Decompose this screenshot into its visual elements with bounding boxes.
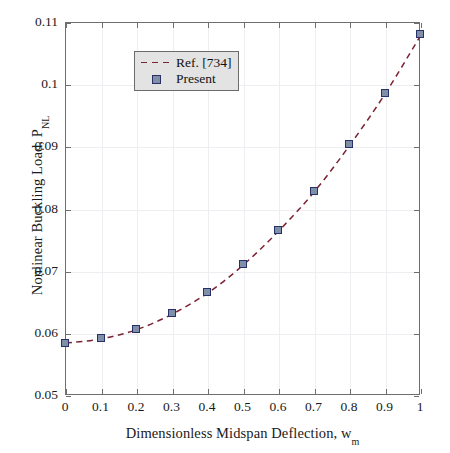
reference-curve [66,23,421,396]
x-axis-tick-label: 1 [400,400,440,414]
data-point-marker [168,309,176,317]
data-point-marker [239,260,247,268]
x-axis-tick-label: 0.2 [116,400,156,414]
y-axis-tick-label: 0.09 [14,139,58,153]
x-axis-tick [421,23,422,28]
x-axis-tick-label: 0.8 [329,400,369,414]
x-axis-tick-label: 0 [45,400,85,414]
data-point-marker [203,288,211,296]
dashed-line-icon [140,56,174,70]
data-point-marker [61,339,69,347]
legend: Ref. [734] Present [134,51,239,91]
data-point-marker [274,226,282,234]
x-axis-tick [421,389,422,394]
square-marker-icon [140,72,174,86]
y-axis-title-subscript: NL [39,116,50,129]
legend-label-ref: Ref. [734] [174,55,231,71]
legend-label-present: Present [174,71,216,87]
x-axis-tick-label: 0.6 [258,400,298,414]
data-point-marker [97,334,105,342]
x-axis-title: Dimensionless Midspan Deflection, wm [60,425,425,444]
y-axis-tick-label: 0.07 [14,264,58,278]
plot-area: Ref. [734] Present [65,22,420,395]
x-axis-title-subscript: m [352,436,360,447]
y-axis-tick-label: 0.06 [14,326,58,340]
data-point-marker [381,89,389,97]
y-axis-tick [66,396,71,397]
legend-item-ref: Ref. [734] [140,55,231,71]
x-axis-tick-label: 0.7 [294,400,334,414]
x-axis-tick-label: 0.5 [223,400,263,414]
data-point-marker [416,30,424,38]
data-point-marker [132,325,140,333]
x-axis-tick-label: 0.9 [365,400,405,414]
x-axis-tick-label: 0.3 [152,400,192,414]
x-axis-tick-label: 0.4 [187,400,227,414]
x-axis-tick-label: 0.1 [81,400,121,414]
x-axis-title-text: Dimensionless Midspan Deflection, w [126,425,352,441]
y-axis-tick-label: 0.1 [14,77,58,91]
y-axis-tick-label: 0.08 [14,202,58,216]
legend-item-present: Present [140,71,231,87]
y-axis-tick-label: 0.11 [14,15,58,29]
data-point-marker [345,140,353,148]
y-axis-tick [414,396,419,397]
chart-figure: Nonlinear Buckling Load, PNL Dimensionle… [0,0,450,453]
data-point-marker [310,187,318,195]
